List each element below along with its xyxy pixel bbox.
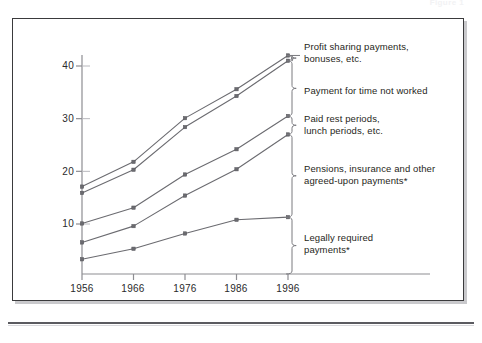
- series-line-0: [82, 55, 288, 186]
- data-point-marker: [235, 94, 238, 97]
- y-axis-tick-10: 10: [52, 218, 74, 229]
- data-point-marker: [80, 222, 83, 225]
- band-brace-4: [286, 217, 296, 274]
- data-point-marker: [235, 218, 238, 221]
- annotation-paid-rest: Paid rest periods, lunch periods, etc.: [304, 113, 383, 136]
- data-point-marker: [80, 191, 83, 194]
- data-point-marker: [132, 247, 135, 250]
- band-brace-0: [286, 55, 296, 61]
- x-axis-tick-1966: 1966: [113, 283, 153, 294]
- data-point-marker: [183, 125, 186, 128]
- bottom-rule: [8, 322, 474, 324]
- series-line-2: [82, 116, 288, 223]
- x-axis-tick-1986: 1986: [216, 283, 256, 294]
- series-line-4: [82, 217, 288, 259]
- data-point-marker: [183, 232, 186, 235]
- figure-root: Figure 1 40 30 20 10 1956 1966 1976 1986…: [0, 0, 482, 343]
- data-point-marker: [235, 168, 238, 171]
- bottom-rule-hairline: [8, 325, 474, 326]
- annotation-profit-sharing: Profit sharing payments, bonuses, etc.: [304, 41, 409, 64]
- annotation-pensions: Pensions, insurance and other agreed-upo…: [304, 163, 435, 186]
- x-axis-tick-1996: 1996: [268, 283, 308, 294]
- band-brace-1: [286, 61, 296, 116]
- y-axis-tick-20: 20: [52, 166, 74, 177]
- annotation-time-not-worked: Payment for time not worked: [304, 85, 428, 97]
- series-line-3: [82, 134, 288, 242]
- data-point-marker: [183, 173, 186, 176]
- x-axis-tick-1976: 1976: [165, 283, 205, 294]
- data-point-marker: [132, 224, 135, 227]
- data-point-marker: [235, 148, 238, 151]
- data-point-marker: [183, 194, 186, 197]
- annotation-legally-required: Legally required payments*: [304, 232, 373, 255]
- x-axis-tick-1956: 1956: [62, 283, 102, 294]
- data-point-marker: [80, 258, 83, 261]
- data-point-marker: [132, 160, 135, 163]
- data-point-marker: [132, 206, 135, 209]
- band-brace-3: [286, 134, 296, 217]
- data-point-marker: [183, 116, 186, 119]
- data-point-marker: [80, 241, 83, 244]
- data-point-marker: [80, 185, 83, 188]
- y-axis-tick-40: 40: [52, 60, 74, 71]
- data-point-marker: [132, 168, 135, 171]
- band-brace-2: [286, 116, 296, 134]
- data-point-marker: [235, 87, 238, 90]
- y-axis-tick-30: 30: [52, 113, 74, 124]
